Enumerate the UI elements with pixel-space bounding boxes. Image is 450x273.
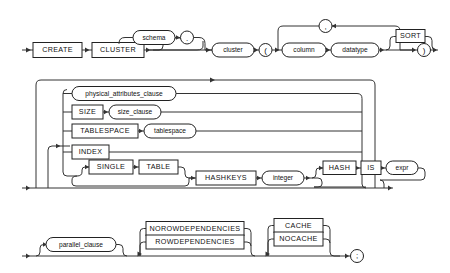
- row-3-group: parallel_clause NOROWDEPENDENCIES ROWDEP…: [22, 219, 364, 263]
- norowdependencies-label: NOROWDEPENDENCIES: [149, 224, 240, 233]
- track-arrow-icon: [306, 176, 310, 180]
- tablespace-keyword-label: TABLESPACE: [80, 126, 130, 135]
- row3-entry-arrow-icon: [26, 254, 30, 259]
- size-label: SIZE: [79, 107, 96, 116]
- syntax-diagram-svg: CREATE CLUSTER schema . cluster: [0, 0, 450, 273]
- track-arrow-icon: [319, 166, 323, 170]
- railroad-diagram-canvas: CREATE CLUSTER schema . cluster: [0, 0, 450, 273]
- row2-entry-arrow-icon: [26, 186, 30, 191]
- inner-left-rail-bottom: [48, 146, 52, 188]
- alt5-exit-down-track: [380, 180, 384, 188]
- parallel-branch-up-track: [36, 245, 46, 257]
- table-label: TABLE: [147, 162, 171, 171]
- choice-hub-arrow-icon: [56, 144, 61, 149]
- hash-bypass-track: [312, 178, 322, 187]
- track-arrow-icon: [85, 47, 90, 52]
- hashkeys-label: HASHKEYS: [205, 173, 247, 182]
- track-arrow-icon: [85, 165, 89, 169]
- track-arrow-icon: [275, 47, 280, 52]
- index-label: INDEX: [79, 147, 103, 156]
- left-paren-label: (: [264, 46, 267, 55]
- rowdep-exit-track: [244, 242, 251, 246]
- single-table-bypass-track: [72, 176, 189, 186]
- choice-rail-left: [63, 90, 67, 147]
- cluster-keyword-label: CLUSTER: [100, 45, 136, 54]
- tablespace-label: tablespace: [154, 127, 186, 135]
- sort-label: SORT: [400, 31, 421, 40]
- track-arrow-icon: [176, 35, 180, 40]
- cache-rail-up-track: [268, 226, 274, 257]
- expr-label: expr: [396, 164, 410, 172]
- track-arrow-icon: [146, 47, 151, 52]
- track-arrow-icon: [412, 48, 416, 53]
- right-paren-label: ): [423, 46, 426, 55]
- track-arrow-icon: [191, 176, 195, 180]
- row-2-group: physical_attributes_clause SIZE size_cla…: [22, 78, 425, 191]
- track-arrow-icon: [326, 48, 330, 53]
- nocache-exit-track: [323, 239, 330, 243]
- track-arrow-icon: [356, 166, 360, 170]
- comma-label: ,: [324, 22, 326, 31]
- hash-label: HASH: [329, 163, 350, 172]
- datatype-label: datatype: [342, 46, 368, 54]
- semicolon-label: ;: [356, 251, 358, 260]
- track-arrow-icon: [257, 176, 261, 180]
- is-label: IS: [367, 163, 375, 172]
- physical-attributes-clause-label: physical_attributes_clause: [85, 90, 163, 98]
- schema-label: schema: [142, 34, 165, 41]
- track-arrow-icon: [380, 48, 384, 53]
- single-branch-up-track: [77, 167, 89, 176]
- integer-label: integer: [273, 174, 294, 182]
- cache-label: CACHE: [285, 221, 312, 230]
- track-arrow-icon: [139, 129, 143, 133]
- row-1-group: CREATE CLUSTER schema . cluster: [22, 20, 438, 58]
- track-arrow-icon: [104, 110, 108, 114]
- parallel-clause-label: parallel_clause: [59, 241, 103, 249]
- create-label: CREATE: [42, 45, 73, 54]
- cache-exit-track: [323, 226, 334, 257]
- track-arrow-icon: [381, 166, 385, 170]
- track-arrow-icon: [134, 165, 138, 169]
- cluster-name-label: cluster: [223, 46, 243, 53]
- column-label: column: [293, 46, 315, 53]
- alt5-lead-track: [63, 172, 77, 176]
- entry-arrow-icon: [26, 47, 31, 52]
- track-arrow-icon: [254, 48, 258, 53]
- row1-exit-arrow-icon: [433, 48, 437, 53]
- rowdependencies-label: ROWDEPENDENCIES: [155, 237, 235, 246]
- row2-exit-arrow-icon: [388, 186, 392, 191]
- table-exit-down-track: [178, 167, 195, 178]
- outer-loop-arrow-icon: [210, 78, 215, 83]
- hash-branch-up-track: [312, 168, 323, 178]
- size-clause-label: size_clause: [118, 108, 153, 116]
- single-label: SINGLE: [97, 162, 125, 171]
- sort-branch-up-track: [386, 37, 396, 51]
- parallel-branch-down-track: [116, 245, 127, 257]
- track-arrow-icon: [206, 47, 211, 52]
- nocache-label: NOCACHE: [279, 234, 317, 243]
- track-arrow-icon: [345, 254, 349, 259]
- dot-label: .: [186, 34, 188, 43]
